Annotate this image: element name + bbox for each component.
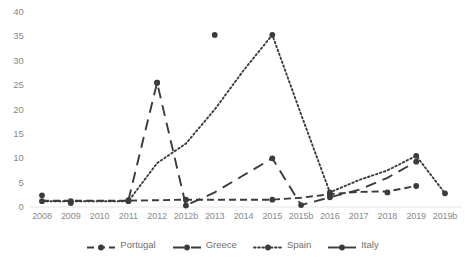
legend-label-spain: Spain <box>287 239 311 250</box>
data-point-greece-2012b <box>183 203 189 209</box>
legend-key-italy-icon <box>327 239 357 250</box>
data-point-greece-2015 <box>269 155 275 161</box>
line-chart: 0510152025303540 20082009201020112012201… <box>0 0 465 259</box>
legend-key-spain-icon <box>253 239 283 250</box>
data-point-spain-2009 <box>68 198 74 204</box>
legend-item-portugal[interactable]: Portugal <box>86 239 155 250</box>
data-point-spain-2011 <box>125 198 131 204</box>
series-markers <box>39 32 448 208</box>
data-point-spain-2008 <box>39 198 45 204</box>
legend-label-greece: Greece <box>206 239 237 250</box>
legend-key-portugal-icon <box>86 239 116 250</box>
legend-label-italy: Italy <box>361 239 378 250</box>
data-point-spain-2016 <box>327 190 333 196</box>
data-point-italy-2018 <box>385 190 391 196</box>
data-point-greece-2015b <box>298 202 304 208</box>
legend-item-italy[interactable]: Italy <box>327 239 378 250</box>
data-point-italy-2013 <box>212 32 218 38</box>
series-lines <box>42 35 445 206</box>
data-point-italy-2008 <box>39 192 45 198</box>
legend-item-spain[interactable]: Spain <box>253 239 311 250</box>
data-point-italy-2012 <box>154 80 160 86</box>
data-point-portugal-2019 <box>413 183 419 189</box>
data-point-greece-2019 <box>413 159 419 165</box>
series-line-greece <box>128 83 416 206</box>
data-point-spain-2019 <box>413 153 419 159</box>
legend-item-greece[interactable]: Greece <box>172 239 237 250</box>
chart-legend: PortugalGreeceSpainItaly <box>0 234 465 254</box>
legend-label-portugal: Portugal <box>120 239 155 250</box>
series-line-portugal <box>42 186 416 201</box>
plot-area <box>0 0 465 259</box>
data-point-portugal-2012b <box>183 197 189 203</box>
data-point-portugal-2015 <box>269 197 275 203</box>
data-point-spain-2019b <box>442 190 448 196</box>
legend-key-greece-icon <box>172 239 202 250</box>
data-point-spain-2015 <box>269 32 275 38</box>
